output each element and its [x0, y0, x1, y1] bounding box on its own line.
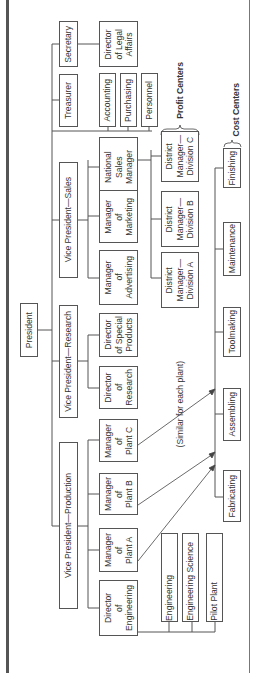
- manager-plant-c-label: Manager of Plant C: [103, 424, 135, 458]
- vp-research-box: Vice President—Research: [59, 305, 78, 418]
- national-sales-manager-label: National Sales Manager: [103, 150, 135, 184]
- maintenance-box: Maintenance: [223, 222, 241, 276]
- finishing-label: Finishing: [227, 151, 238, 185]
- director-special-products-label: Director of Special Products: [103, 316, 135, 354]
- director-research-box: Director of Research: [99, 366, 138, 409]
- district-manager-c-label: District Manager— Division C: [164, 135, 196, 178]
- manager-plant-a-label: Manager of Plant A: [103, 533, 135, 567]
- engineering-box: Engineering: [161, 533, 178, 622]
- fabricating-label: Fabricating: [227, 475, 238, 518]
- engineering-science-label: Engineering Science: [185, 541, 196, 621]
- director-engineering-box: Director of Engineering: [99, 580, 138, 636]
- accounting-box: Accounting: [99, 73, 116, 127]
- district-manager-a-label: District Manager— Division A: [164, 259, 196, 302]
- profit-centers-label: Profit Centers: [175, 62, 186, 119]
- manager-advertising-label: Manager of Advertising: [103, 256, 135, 299]
- secretary-label: Secretary: [63, 26, 74, 63]
- engineering-science-box: Engineering Science: [182, 533, 199, 622]
- district-manager-a-box: District Manager— Division A: [161, 252, 199, 308]
- president-label: President: [24, 312, 35, 348]
- manager-plant-c-box: Manager of Plant C: [99, 419, 138, 462]
- engineering-label: Engineering: [164, 574, 175, 621]
- manager-advertising-box: Manager of Advertising: [99, 250, 138, 305]
- treasurer-box: Treasurer: [59, 74, 78, 127]
- director-legal-affairs-box: Director of Legal Affairs: [99, 21, 138, 67]
- treasurer-label: Treasurer: [63, 82, 74, 119]
- district-manager-b-box: District Manager— Division B: [161, 191, 199, 247]
- purchasing-box: Purchasing: [120, 73, 137, 127]
- director-legal-affairs-label: Director of Legal Affairs: [103, 29, 135, 60]
- profit-centers-annotation: Profit Centers: [172, 55, 188, 125]
- national-sales-manager-box: National Sales Manager: [99, 137, 138, 197]
- pilot-plant-label: Pilot Plant: [209, 576, 220, 621]
- manager-plant-a-box: Manager of Plant A: [99, 528, 138, 572]
- pilot-plant-box: Pilot Plant: [206, 533, 223, 622]
- similar-note-annotation: (Similar for each plant): [172, 358, 188, 450]
- fabricating-box: Fabricating: [223, 470, 241, 522]
- vp-production-box: Vice President—Production: [59, 442, 78, 609]
- district-manager-c-box: District Manager— Division C: [161, 131, 199, 182]
- accounting-label: Accounting: [102, 79, 113, 122]
- vp-sales-box: Vice President—Sales: [59, 162, 78, 278]
- president-box: President: [20, 303, 38, 357]
- cost-centers-annotation: Cost Centers: [228, 78, 244, 142]
- director-special-products-box: Director of Special Products: [99, 313, 138, 357]
- manager-marketing-label: Manager of Marketing: [103, 198, 135, 236]
- district-manager-b-label: District Manager— Division B: [164, 198, 196, 241]
- director-research-label: Director of Research: [103, 369, 135, 406]
- maintenance-label: Maintenance: [227, 224, 238, 273]
- vp-sales-label: Vice President—Sales: [63, 177, 74, 262]
- personnel-label: Personnel: [144, 81, 155, 120]
- similar-note-label: (Similar for each plant): [175, 361, 186, 447]
- vp-production-label: Vice President—Production: [63, 473, 74, 578]
- manager-plant-b-box: Manager of Plant B: [99, 473, 138, 515]
- secretary-box: Secretary: [59, 21, 78, 67]
- toolmaking-box: Toolmaking: [223, 307, 241, 357]
- director-engineering-label: Director of Engineering: [103, 585, 135, 631]
- manager-plant-b-label: Manager of Plant B: [103, 477, 135, 511]
- personnel-box: Personnel: [141, 73, 158, 127]
- assembling-box: Assembling: [223, 388, 241, 441]
- manager-marketing-box: Manager of Marketing: [99, 190, 138, 243]
- assembling-label: Assembling: [227, 392, 238, 436]
- toolmaking-label: Toolmaking: [227, 310, 238, 353]
- finishing-box: Finishing: [223, 148, 241, 188]
- vp-research-label: Vice President—Research: [63, 311, 74, 412]
- purchasing-label: Purchasing: [123, 79, 134, 122]
- cost-centers-label: Cost Centers: [231, 83, 242, 136]
